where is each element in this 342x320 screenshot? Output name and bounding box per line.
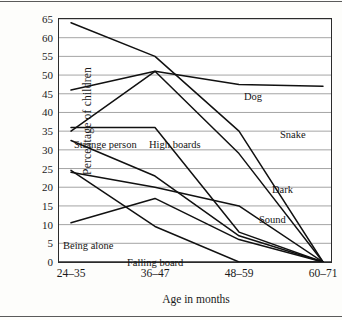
- series-label: Dark: [272, 184, 293, 195]
- x-axis-tick-labels: 24–3536–4748–5960–71: [59, 267, 333, 285]
- x-tick-label: 60–71: [288, 267, 342, 279]
- series-line: [71, 71, 323, 90]
- series-label: High boards: [149, 139, 201, 150]
- x-tick-label: 48–59: [204, 267, 274, 279]
- plot-area: 05101520253035404550556065 24–3536–4748–…: [58, 18, 332, 263]
- series-line: [71, 71, 323, 262]
- y-tick-label: 40: [13, 107, 53, 118]
- y-tick-label: 0: [13, 257, 53, 268]
- y-tick-label: 10: [13, 219, 53, 230]
- series-label: Falling board: [127, 257, 183, 268]
- y-tick-label: 45: [13, 88, 53, 99]
- y-tick-label: 25: [13, 163, 53, 174]
- y-tick-label: 60: [13, 32, 53, 43]
- y-tick-label: 55: [13, 51, 53, 62]
- y-tick-label: 65: [13, 14, 53, 25]
- x-tick-label: 24–35: [36, 267, 106, 279]
- y-tick-label: 20: [13, 182, 53, 193]
- series-label: Sound: [259, 214, 286, 225]
- series-line: [71, 198, 323, 262]
- y-tick-label: 5: [13, 238, 53, 249]
- x-tick-label: 36–47: [120, 267, 190, 279]
- y-tick-label: 35: [13, 126, 53, 137]
- series-label: Dog: [244, 91, 262, 102]
- page-rule-bottom: [0, 316, 342, 317]
- series-label: Snake: [280, 129, 306, 140]
- figure: 05101520253035404550556065 24–3536–4748–…: [0, 0, 342, 320]
- y-axis-tick-labels: 05101520253035404550556065: [13, 19, 59, 264]
- page-rule-top: [0, 1, 342, 2]
- y-tick-label: 30: [13, 144, 53, 155]
- series-label: Strange person: [74, 139, 137, 150]
- y-axis-title: Percentage of children: [81, 41, 93, 201]
- series-label: Being alone: [63, 240, 113, 251]
- x-axis-title: Age in months: [59, 293, 333, 305]
- y-tick-label: 15: [13, 200, 53, 211]
- y-tick-label: 50: [13, 70, 53, 81]
